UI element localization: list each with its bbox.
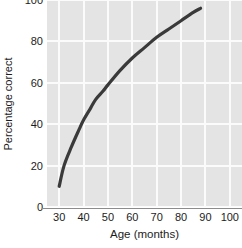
y-axis-title-text: Percentage correct [2,57,14,150]
x-axis-title: Age (months) [47,228,242,240]
x-tick-label-100: 100 [215,211,242,224]
y-axis-title: Percentage correct [0,0,16,207]
line-series-curve [47,0,242,207]
plot-area [47,0,242,207]
x-axis-tick-labels: 30405060708090100 [0,211,242,227]
x-axis-line [42,208,242,209]
x-axis-title-text: Age (months) [110,228,179,240]
chart-figure: 020406080100 30405060708090100 Percentag… [0,0,242,248]
